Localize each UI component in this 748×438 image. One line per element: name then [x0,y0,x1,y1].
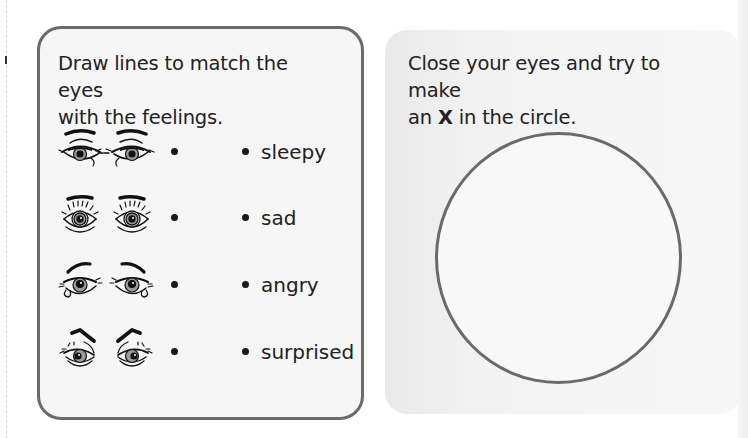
feeling-connector-dot-4[interactable] [242,348,249,355]
sleepy-eyes-icon [56,127,166,177]
drawing-circle[interactable] [435,132,682,384]
feeling-connector-dot-3[interactable] [242,281,249,288]
match-row-3: angry [56,260,356,310]
instruction-line-2-prefix: an [408,106,438,129]
eyes-connector-dot-3[interactable] [171,281,178,288]
page-edge-shadow [738,0,748,438]
draw-x-instruction: Close your eyes and try to make an X in … [408,50,718,131]
match-row-2: sad [56,193,356,243]
angry-eyes-icon [56,327,166,377]
instruction-line-2-suffix: in the circle. [453,106,576,129]
page-gutter-line [6,0,7,438]
match-row-1: sleepy [56,127,356,177]
match-eyes-instruction: Draw lines to match the eyes with the fe… [58,50,338,131]
page-gutter-mark [5,56,7,64]
instruction-line-1: Close your eyes and try to make [408,52,660,102]
eyes-connector-dot-1[interactable] [171,148,178,155]
feeling-label-sad: sad [261,206,296,230]
match-row-4: surprised [56,327,356,377]
feeling-connector-dot-2[interactable] [242,214,249,221]
x-mark-label: X [438,106,453,129]
eyes-connector-dot-4[interactable] [171,348,178,355]
feeling-label-angry: angry [261,273,319,297]
feeling-label-surprised: surprised [261,340,354,364]
eyes-connector-dot-2[interactable] [171,214,178,221]
feeling-label-sleepy: sleepy [261,140,326,164]
instruction-line-1: Draw lines to match the eyes [58,52,288,102]
surprised-eyes-icon [56,193,166,243]
instruction-line-2: with the feelings. [58,106,223,129]
feeling-connector-dot-1[interactable] [242,148,249,155]
sad-eyes-icon [56,260,166,310]
